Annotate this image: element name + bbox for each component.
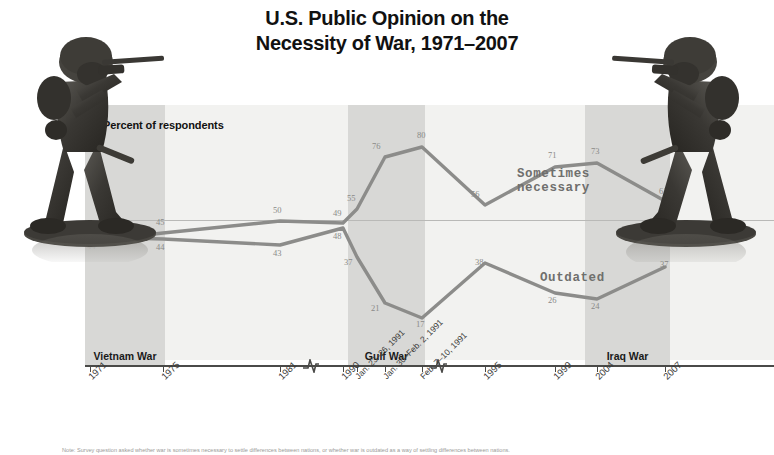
data-label-upper-jan30: 76 <box>372 141 381 151</box>
war-band-label-iraq: Iraq War <box>585 345 670 367</box>
chart-footnote: Note: Survey question asked whether war … <box>62 447 722 454</box>
axis-year-1999: 1999 <box>551 359 574 382</box>
data-label-upper-jan23: 55 <box>347 193 356 203</box>
series-annotation-sometimes-necessary: Sometimes necessary <box>517 167 590 195</box>
data-label-lower-1999: 26 <box>548 295 557 305</box>
data-label-upper-1981: 50 <box>273 205 282 215</box>
title-line-1: U.S. Public Opinion on the <box>265 7 508 29</box>
data-label-upper-feb7: 80 <box>417 130 426 140</box>
series-annotation-outdated: Outdated <box>540 271 605 285</box>
data-label-lower-feb7: 17 <box>416 319 425 329</box>
data-label-lower-1990: 48 <box>333 231 342 241</box>
data-label-lower-2004: 24 <box>591 301 600 311</box>
war-band-text-iraq: Iraq War <box>607 350 649 362</box>
data-label-lower-1995: 38 <box>475 257 484 267</box>
data-label-lower-jan23: 37 <box>344 257 353 267</box>
axis-break-icon-1 <box>303 359 319 373</box>
annotation-line-1: Sometimes <box>517 167 590 181</box>
data-label-upper-1990: 49 <box>333 208 342 218</box>
infographic-canvas: U.S. Public Opinion on the Necessity of … <box>0 0 774 455</box>
data-label-lower-1981: 43 <box>273 248 282 258</box>
data-label-upper-2004: 73 <box>591 146 600 156</box>
toy-soldier-left-figure <box>6 12 166 262</box>
toy-soldier-right-figure <box>600 12 770 262</box>
toy-soldier-left-icon <box>6 12 166 262</box>
toy-soldier-right-icon <box>600 12 770 262</box>
axis-year-1981: 1981 <box>276 359 299 382</box>
data-label-upper-1999: 71 <box>548 150 557 160</box>
annotation-line-2: necessary <box>517 181 590 195</box>
data-label-upper-1995: 56 <box>471 189 480 199</box>
x-axis: 1971 1975 1981 1990 Jan. 23–26, 1991 Jan… <box>0 365 774 455</box>
axis-year-1995: 1995 <box>481 359 504 382</box>
data-label-lower-jan30: 21 <box>371 303 380 313</box>
